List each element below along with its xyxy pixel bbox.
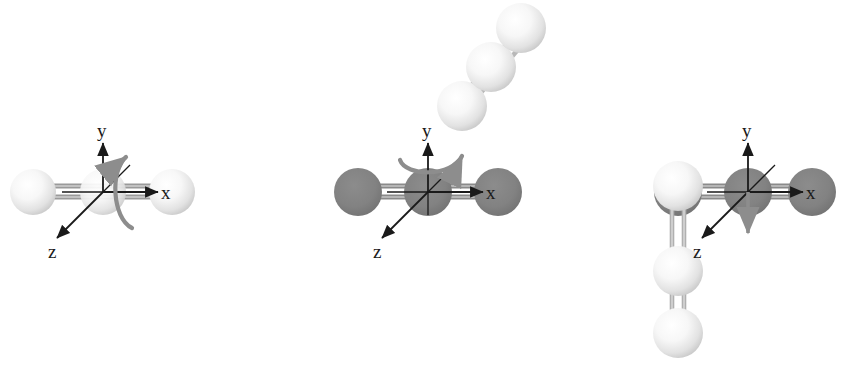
- figure-canvas: y x z: [0, 0, 844, 366]
- panel-3-y-label: y: [742, 120, 752, 141]
- panel-3-layer: y x z: [0, 0, 844, 366]
- panel-3-z-label: z: [693, 241, 701, 262]
- panel-3-x-label: x: [806, 182, 816, 203]
